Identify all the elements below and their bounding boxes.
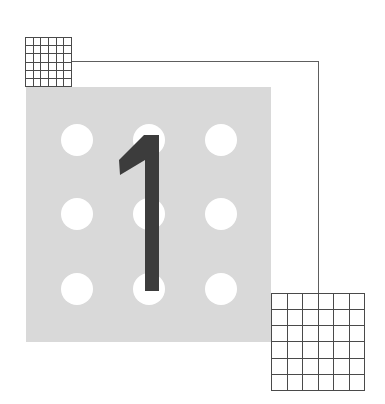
dot-2 [133, 124, 165, 156]
dot-5 [133, 198, 165, 230]
dot-4 [61, 198, 93, 230]
large-grid [271, 293, 365, 391]
dot-9 [205, 273, 237, 305]
dot-3 [205, 124, 237, 156]
dot-1 [61, 124, 93, 156]
connector-line-vertical [318, 61, 319, 294]
connector-line-horizontal [71, 61, 319, 62]
dot-7 [61, 273, 93, 305]
chapter-number-graphic: 1 [0, 0, 385, 404]
small-grid [25, 37, 72, 87]
dot-8 [133, 273, 165, 305]
dot-6 [205, 198, 237, 230]
